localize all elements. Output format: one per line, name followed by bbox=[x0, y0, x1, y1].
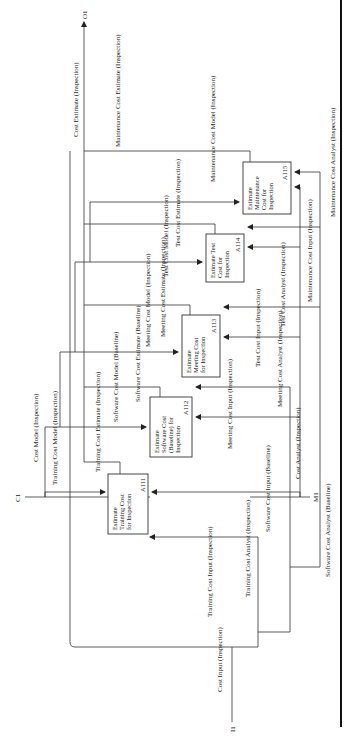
i1-label: Cost Input (Inspection) bbox=[216, 626, 224, 692]
label-test-cost-input: Test Cost Input (Inspection) bbox=[254, 288, 262, 367]
control-arrows: Training Cost Model (Inspection) Softwar… bbox=[45, 75, 239, 497]
a112-line4: Inspection bbox=[174, 425, 181, 453]
label-maintenance-cost-input: Maintenance Cost Input (Inspection) bbox=[306, 198, 314, 302]
label-training-cost-model: Training Cost Model (Inspection) bbox=[51, 390, 59, 485]
a115-line1: Estimate bbox=[246, 187, 253, 210]
a113-line3: for Inspection bbox=[199, 336, 206, 373]
label-training-cost-estimate: Training Cost Estimate (Inspection) bbox=[94, 371, 102, 472]
a111-line1: Estimate bbox=[111, 507, 118, 530]
a114-line2: Cost for bbox=[216, 256, 223, 278]
a115-line3: Cost for bbox=[260, 188, 267, 210]
m1-code: M1 bbox=[312, 492, 320, 502]
boundary-output-o1: O1 Cost Estimate (Inspection) bbox=[72, 10, 89, 151]
label-training-cost-analyst: Training Cost Analyst (Inspection) bbox=[244, 499, 252, 597]
activity-a111[interactable]: Estimate Training Cost for Inspection A1… bbox=[108, 474, 148, 534]
label-meeting-cost-model: Meeting Cost Model (Inspection) bbox=[144, 253, 152, 347]
a115-id: A115 bbox=[281, 166, 288, 180]
activity-a112[interactable]: Estimate Software Cost (Baseline) for In… bbox=[150, 397, 192, 457]
a111-id: A111 bbox=[139, 478, 146, 492]
a115-line2: Maintenance bbox=[253, 176, 260, 210]
label-software-cost-model: Software Cost Model (Baseline) bbox=[112, 331, 120, 422]
label-maintenance-cost-analyst: Maintenance Cost Analyst (Inspection) bbox=[329, 107, 337, 217]
a111-line3: for Inspection bbox=[125, 493, 132, 530]
i1-code: I1 bbox=[229, 726, 237, 732]
label-maintenance-cost-estimate: Maintenance Cost Estimate (Inspection) bbox=[114, 34, 122, 147]
a112-line2: Software Cost bbox=[160, 416, 167, 453]
o1-label: Cost Estimate (Inspection) bbox=[72, 62, 80, 137]
m1-label: Cost Analyst (Inspection) bbox=[294, 407, 302, 479]
label-test-cost-estimate: Test Cost Estimate (Inspection) bbox=[174, 158, 182, 247]
label-software-cost-input: Software Cost Input (Baseline) bbox=[264, 444, 272, 532]
c1-label: Cost Model (Inspection) bbox=[32, 393, 40, 462]
activity-a115[interactable]: Estimate Maintenance Cost for Inspection… bbox=[243, 162, 291, 214]
activity-a113[interactable]: Estimate Meeting Cost for Inspection A11… bbox=[182, 315, 220, 377]
a114-line3: Inspection bbox=[223, 250, 230, 278]
label-test-cost-analyst: Test Cost Analyst (Inspection) bbox=[279, 241, 287, 327]
label-software-cost-estimate: Software Cost Estimate (Baseline) bbox=[134, 305, 142, 402]
label-training-cost-input: Training Cost Input (Inspection) bbox=[206, 526, 214, 617]
a113-line1: Estimate bbox=[185, 350, 192, 373]
page-rule bbox=[340, 0, 342, 727]
a114-line1: Estimate Test bbox=[209, 243, 216, 278]
a114-id: A114 bbox=[234, 237, 241, 252]
c1-code: C1 bbox=[14, 493, 22, 502]
boundary-mechanism-m1: M1 Cost Analyst (Inspection) bbox=[250, 407, 320, 502]
label-maintenance-cost-model: Maintenance Cost Model (Inspection) bbox=[209, 75, 217, 182]
label-software-cost-analyst: Software Cost Analyst (Baseline) bbox=[324, 483, 332, 577]
a111-line2: Training Cost bbox=[118, 494, 125, 530]
a113-id: A113 bbox=[210, 319, 217, 333]
a112-line1: Estimate bbox=[153, 430, 160, 453]
a113-line2: Meeting Cost bbox=[192, 338, 199, 373]
label-meeting-cost-input: Meeting Cost Input (Inspection) bbox=[226, 358, 234, 449]
o1-code: O1 bbox=[81, 10, 89, 19]
label-meeting-cost-estimate: Meeting Cost Estimate (Inspection) bbox=[159, 237, 167, 337]
idef0-diagram: I1 Cost Input (Inspection) C1 Cost Model… bbox=[0, 0, 350, 747]
boundary-input-i1: I1 Cost Input (Inspection) bbox=[216, 626, 237, 732]
a112-id: A112 bbox=[182, 401, 189, 415]
a115-line4: Inspection bbox=[267, 182, 274, 210]
activity-a114[interactable]: Estimate Test Cost for Inspection A114 bbox=[206, 234, 244, 282]
